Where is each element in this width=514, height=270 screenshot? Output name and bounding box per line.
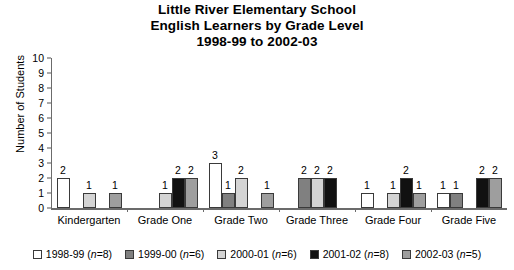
bar [159,193,172,208]
bar-value-label: 2 [175,164,181,176]
bar-slot [96,58,109,208]
legend-label: 2002-03 (n=5) [415,248,481,260]
bar-value-label: 2 [479,164,485,176]
x-tick-label: Grade One [138,214,192,226]
chart-title: Little River Elementary School English L… [0,2,514,50]
legend-swatch [310,250,319,259]
bar [185,178,198,208]
bar-value-label: 2 [314,164,320,176]
bar [324,178,337,208]
bar-slot: 2 [476,58,489,208]
bar-value-label: 2 [492,164,498,176]
y-tick-label: 3 [24,157,44,169]
bar-slot: 2 [324,58,337,208]
bar-slot [248,58,261,208]
bar-group: 122 [127,58,203,208]
group-separator-tick [431,208,432,212]
legend-item[interactable]: 2002-03 (n=5) [402,248,481,260]
bar-slot: 1 [437,58,450,208]
legend-swatch [125,250,134,259]
y-tick-label: 8 [24,82,44,94]
bar-value-label: 1 [264,179,270,191]
x-tick-label: Grade Five [442,214,496,226]
y-tick-label: 2 [24,172,44,184]
bar-slot [133,58,146,208]
x-tick-label: Grade Three [286,214,348,226]
bar [437,193,450,208]
bar-group: 1122 [431,58,507,208]
x-tick-label: Grade Two [214,214,268,226]
group-separator-tick [203,208,204,212]
bar-groups: 211122312122211211122 [51,58,507,208]
bar-value-label: 2 [188,164,194,176]
y-tick-label: 0 [24,202,44,214]
bar [261,193,274,208]
y-tick-mark [47,133,51,134]
y-tick-mark [47,118,51,119]
y-tick-mark [47,163,51,164]
bar-group: 222 [279,58,355,208]
bar-value-label: 1 [453,179,459,191]
bar-value-label: 1 [416,179,422,191]
bar-value-label: 2 [327,164,333,176]
group-separator-tick [279,208,280,212]
chart-legend: 1998-99 (n=8)1999-00 (n=6)2000-01 (n=6)2… [0,248,514,260]
legend-label: 2001-02 (n=8) [323,248,389,260]
bar-slot: 1 [109,58,122,208]
bar-value-label: 1 [225,179,231,191]
title-line-1: Little River Elementary School [0,2,514,18]
x-tick-label: Kindergarten [58,214,121,226]
bar-value-label: 1 [364,179,370,191]
legend-item[interactable]: 2001-02 (n=8) [310,248,389,260]
bar-value-label: 1 [390,179,396,191]
bar-group: 3121 [203,58,279,208]
y-tick-mark [47,208,51,209]
bar-slot [374,58,387,208]
bar-slot: 1 [222,58,235,208]
bar [387,193,400,208]
legend-item[interactable]: 1999-00 (n=6) [125,248,204,260]
y-tick-label: 7 [24,97,44,109]
y-tick-mark [47,148,51,149]
bar [222,193,235,208]
y-tick-mark [47,103,51,104]
y-tick-mark [47,58,51,59]
y-tick-label: 5 [24,127,44,139]
legend-swatch [33,250,42,259]
bar [450,193,463,208]
bar [361,193,374,208]
bar [413,193,426,208]
x-tick-label: Grade Four [365,214,421,226]
bar [235,178,248,208]
bar-slot: 2 [185,58,198,208]
legend-item[interactable]: 1998-99 (n=8) [33,248,112,260]
bar [109,193,122,208]
bar-group: 211 [51,58,127,208]
bar-value-label: 2 [301,164,307,176]
bar [172,178,185,208]
bar-slot: 1 [159,58,172,208]
bar-slot: 1 [83,58,96,208]
bar [400,178,413,208]
bar-slot: 1 [387,58,400,208]
y-tick-label: 1 [24,187,44,199]
bar-slot: 2 [311,58,324,208]
bar-value-label: 1 [86,179,92,191]
y-tick-label: 4 [24,142,44,154]
bar-slot [285,58,298,208]
y-tick-mark [47,73,51,74]
x-axis-labels: KindergartenGrade OneGrade TwoGrade Thre… [51,214,507,232]
y-tick-label: 10 [24,52,44,64]
bar-slot: 2 [489,58,502,208]
group-separator-tick [355,208,356,212]
legend-swatch [217,250,226,259]
bar-slot: 1 [413,58,426,208]
y-axis-ticks: 012345678910 [24,58,44,208]
bar-slot [463,58,476,208]
chart-page: Little River Elementary School English L… [0,0,514,270]
bar-slot [70,58,83,208]
bar-slot: 3 [209,58,222,208]
legend-item[interactable]: 2000-01 (n=6) [217,248,296,260]
bar [298,178,311,208]
bar [311,178,324,208]
